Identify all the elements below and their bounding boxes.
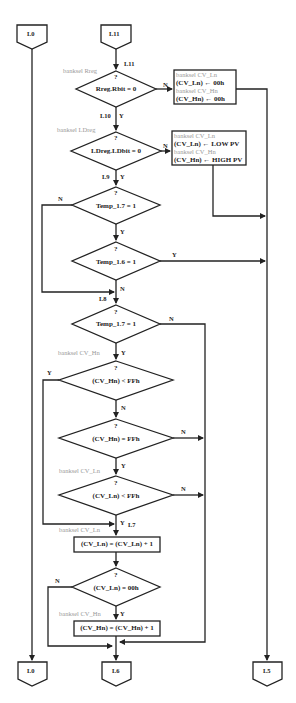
label-l7: L7 bbox=[128, 522, 136, 529]
box1-line4: (CV_Hn) ← 00h bbox=[176, 96, 225, 103]
decision-q-3: ? bbox=[114, 190, 118, 197]
branch-n-d4: N bbox=[120, 286, 125, 293]
branch-y-d5: Y bbox=[121, 350, 126, 357]
connector-label-bottom-l6: L6 bbox=[112, 668, 120, 675]
branch-y-d6: Y bbox=[47, 370, 52, 377]
branch-y-d8: Y bbox=[120, 520, 125, 527]
box1-line2: (CV_Ln) ← 00h bbox=[176, 80, 224, 87]
bank-label-cvln-2: banksel CV_Ln bbox=[59, 527, 100, 534]
box2-line2: (CV_Ln) ← LOW PV bbox=[174, 141, 239, 148]
branch-n-d8: N bbox=[181, 486, 186, 493]
decision-text-cvhn-lt: (CV_Hn) < FFh bbox=[84, 378, 148, 385]
bank-label-rreg: banksel Rreg bbox=[63, 68, 97, 75]
label-l8: L8 bbox=[99, 296, 107, 303]
decision-text-temp16: Temp_1.6 = 1 bbox=[88, 259, 144, 266]
decision-q-5: ? bbox=[114, 309, 118, 316]
label-l10: L10 bbox=[100, 113, 111, 120]
box1-line1: banksel CV_Ln bbox=[176, 72, 217, 79]
decision-text-rreg: Rreg.Rbit = 0 bbox=[90, 86, 142, 93]
decision-q-9: ? bbox=[114, 572, 118, 579]
bank-label-ldreg: banksel LDreg bbox=[57, 127, 95, 134]
decision-text-cvln-zero: (CV_Ln) = 00h bbox=[88, 585, 144, 592]
box2-line3: banksel CV_Hn bbox=[174, 149, 216, 156]
branch-n-d6: N bbox=[121, 405, 126, 412]
decision-q-2: ? bbox=[114, 135, 118, 142]
decision-text-cvln-lt: (CV_Ln) < FFh bbox=[84, 493, 148, 500]
box4-text: (CV_Hn) = (CV_Hn) + 1 bbox=[74, 625, 160, 632]
box2-line1: banksel CV_Ln bbox=[174, 133, 215, 140]
decision-q-6: ? bbox=[114, 365, 118, 372]
connector-label-top-l11: L11 bbox=[109, 31, 119, 38]
decision-text-temp17-a: Temp_1.7 = 1 bbox=[88, 203, 144, 210]
label-l11: L11 bbox=[124, 61, 134, 68]
branch-n-d9: N bbox=[55, 578, 60, 585]
decision-q-7: ? bbox=[114, 423, 118, 430]
decision-q-8: ? bbox=[114, 480, 118, 487]
label-l9: L9 bbox=[102, 174, 110, 181]
box3-text: (CV_Ln) = (CV_Ln) + 1 bbox=[74, 541, 160, 548]
decision-text-cvhn-eq: (CV_Hn) = FFh bbox=[84, 436, 148, 443]
bank-label-cvln-1: banksel CV_Ln bbox=[59, 468, 100, 475]
connector-label-bottom-l5: L5 bbox=[263, 668, 271, 675]
decision-text-temp17-b: Temp_1.7 = 1 bbox=[88, 321, 144, 328]
branch-n-d2: N bbox=[163, 143, 168, 150]
bank-label-cvhn-2: banksel CV_Hn bbox=[59, 611, 101, 618]
decision-text-ldreg: LDreg.LDbit = 0 bbox=[82, 148, 150, 155]
flowchart-canvas bbox=[0, 0, 296, 703]
branch-y-d7: Y bbox=[121, 463, 126, 470]
box2-line4: (CV_Hn) ← HIGH PV bbox=[174, 157, 242, 164]
branch-y-d2: Y bbox=[120, 174, 125, 181]
branch-n-d1: N bbox=[163, 82, 168, 89]
branch-y-d9: Y bbox=[120, 611, 125, 618]
connector-label-bottom-l0: L0 bbox=[27, 668, 35, 675]
decision-q-4: ? bbox=[114, 246, 118, 253]
branch-y-d1: Y bbox=[119, 113, 124, 120]
branch-n-d3: N bbox=[58, 196, 63, 203]
branch-n-d5: N bbox=[169, 316, 174, 323]
box1-line3: banksel CV_Hn bbox=[176, 88, 218, 95]
bank-label-cvhn-1: banksel CV_Hn bbox=[58, 350, 100, 357]
branch-n-d7: N bbox=[181, 429, 186, 436]
branch-y-d4: Y bbox=[172, 252, 177, 259]
connector-label-top-l0: L0 bbox=[27, 31, 35, 38]
decision-q-1: ? bbox=[114, 74, 118, 81]
branch-y-d3: Y bbox=[120, 229, 125, 236]
